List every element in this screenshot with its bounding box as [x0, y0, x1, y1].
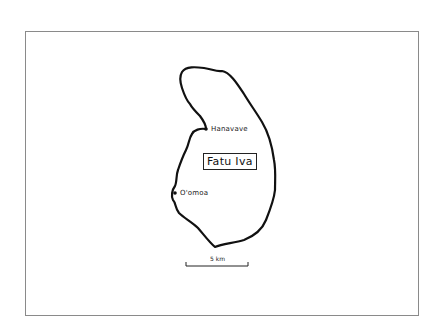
place-label-hanavave: Hanavave	[211, 125, 248, 133]
place-label-oomoa: O'omoa	[180, 189, 208, 197]
scale-bar-label: 5 km	[210, 255, 225, 262]
hanavave-dot-icon	[204, 127, 208, 131]
scale-bar	[186, 262, 248, 266]
island-name-label: Fatu Iva	[203, 153, 257, 170]
oomoa-dot-icon	[173, 191, 177, 195]
